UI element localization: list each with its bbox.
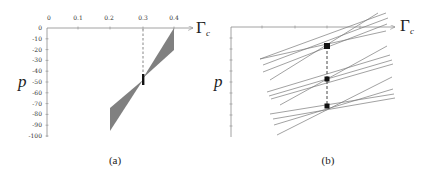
y-tick-label: -30	[32, 56, 42, 63]
y-tick-label: 0	[38, 24, 42, 31]
solution-marker	[142, 74, 144, 85]
x-axis-title: Γ	[196, 18, 206, 37]
x-axis-title-subscript: c	[206, 28, 210, 38]
y-tick-label: -20	[32, 46, 42, 53]
x-tick-label: 0.4	[169, 14, 179, 21]
y-axis-title: p	[17, 72, 27, 91]
y-tick-label: -10	[32, 35, 42, 42]
y-axis-title: p	[213, 72, 223, 91]
y-tick-label: -60	[32, 89, 42, 96]
y-tick-label: -50	[32, 78, 42, 85]
y-tick-label: -90	[32, 121, 42, 128]
pivot-marker-middle	[325, 77, 330, 82]
x-axis-title: Γ	[400, 16, 410, 35]
caption-b: (b)	[322, 154, 335, 167]
x-tick-labels: 0 0.1 0.2 0.3 0.4	[47, 14, 179, 21]
y-tick-label: -100	[29, 132, 43, 139]
y-tick-label: -40	[32, 67, 42, 74]
pivot-marker-top	[324, 43, 330, 49]
panel-b: p Γ c (b)	[213, 13, 414, 167]
y-tick-label: -70	[32, 100, 42, 107]
feasible-region-upper	[143, 28, 174, 78]
panel-a: 0 0.1 0.2 0.3 0.4 0 -10 -20 -30 -40 -50	[17, 14, 210, 167]
x-axis-title-subscript: c	[410, 26, 414, 36]
feasible-region-lower	[110, 80, 143, 131]
pivot-marker-bottom	[325, 104, 330, 109]
line-family-middle	[267, 46, 393, 105]
x-tick-label: 0.3	[138, 14, 148, 21]
caption-a: (a)	[109, 154, 122, 167]
y-tick-labels: 0 -10 -20 -30 -40 -50 -60 -70 -80 -90 -1…	[29, 24, 43, 139]
figure: 0 0.1 0.2 0.3 0.4 0 -10 -20 -30 -40 -50	[0, 0, 433, 178]
x-tick-label: 0	[47, 14, 51, 21]
y-tick-label: -80	[32, 110, 42, 117]
x-tick-label: 0.2	[104, 14, 114, 21]
x-tick-label: 0.1	[73, 14, 83, 21]
